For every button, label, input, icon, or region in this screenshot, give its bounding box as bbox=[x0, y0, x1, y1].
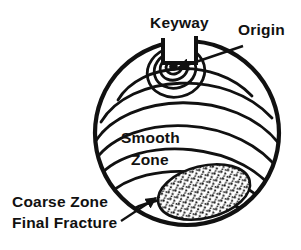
fracture-diagram-figure: Keyway Origin Smooth Zone Coarse Zone Fi… bbox=[0, 0, 301, 250]
fracture-surface-svg: Keyway Origin Smooth Zone Coarse Zone Fi… bbox=[0, 0, 301, 250]
origin-dot-icon bbox=[169, 62, 178, 71]
label-smooth-zone-line2: Zone bbox=[131, 151, 169, 168]
label-coarse-zone-line2: Final Fracture bbox=[12, 214, 117, 231]
label-origin: Origin bbox=[238, 21, 285, 38]
label-keyway: Keyway bbox=[150, 14, 209, 31]
label-coarse-zone-line1: Coarse Zone bbox=[12, 193, 108, 210]
label-smooth-zone-line1: Smooth bbox=[121, 129, 180, 146]
keyway-notch bbox=[163, 36, 196, 63]
keyway-notch-group bbox=[163, 36, 196, 63]
